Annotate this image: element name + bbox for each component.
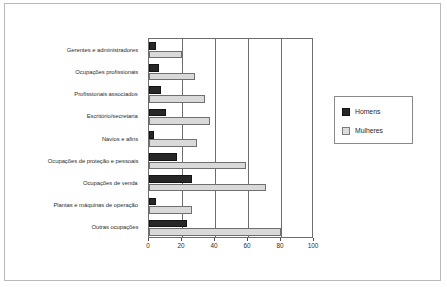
x-tick-label-80: 80 [276, 242, 283, 250]
bar-mulheres-8 [149, 228, 281, 236]
x-tick-mark-20 [181, 238, 182, 241]
bar-homens-5 [149, 153, 177, 161]
category-label: Escritório/secretaria [87, 112, 138, 119]
bar-chart: Gerentes e administradoresOcupações prof… [5, 4, 440, 280]
x-tick-label-100: 100 [308, 242, 319, 250]
bar-group [149, 217, 312, 239]
legend-label: Mulheres [355, 127, 383, 135]
bar-group [149, 39, 312, 61]
bar-homens-8 [149, 220, 187, 228]
bar-group [149, 61, 312, 83]
legend-item-mulheres[interactable]: Mulheres [342, 127, 383, 135]
x-axis: 020406080100 [148, 238, 313, 256]
category-label: Outras ocupações [91, 223, 138, 230]
x-tick-mark-40 [214, 238, 215, 241]
chart-legend: HomensMulheres [334, 96, 413, 144]
bar-homens-2 [149, 86, 161, 94]
x-tick-label-0: 0 [146, 242, 150, 250]
bar-group [149, 83, 312, 105]
category-label: Ocupações profissionais [75, 68, 138, 75]
bar-mulheres-0 [149, 51, 182, 59]
x-tick-label-60: 60 [243, 242, 250, 250]
bar-homens-6 [149, 175, 192, 183]
x-tick-mark-0 [148, 238, 149, 241]
bar-homens-4 [149, 131, 154, 139]
figure-frame: Gerentes e administradoresOcupações prof… [4, 3, 441, 281]
category-label: Ocupações de proteção e pessoais [47, 157, 138, 164]
category-label: Ocupações de venda [83, 179, 138, 186]
category-label: Profissionais associados [75, 90, 138, 97]
bar-mulheres-1 [149, 73, 195, 81]
bar-mulheres-6 [149, 184, 266, 192]
x-tick-label-40: 40 [210, 242, 217, 250]
bar-group [149, 128, 312, 150]
category-label: Navios e afins [102, 135, 138, 142]
bar-mulheres-7 [149, 206, 192, 214]
category-label: Plantas e máquinas de operação [53, 201, 138, 208]
bar-homens-3 [149, 109, 166, 117]
x-tick-mark-60 [247, 238, 248, 241]
category-axis-labels: Gerentes e administradoresOcupações prof… [5, 38, 144, 238]
bar-mulheres-3 [149, 117, 210, 125]
legend-swatch-icon [342, 108, 350, 116]
bar-group [149, 150, 312, 172]
legend-label: Homens [355, 108, 380, 116]
legend-swatch-icon [342, 127, 350, 135]
bar-mulheres-4 [149, 139, 197, 147]
bar-mulheres-2 [149, 95, 205, 103]
category-label: Gerentes e administradores [67, 46, 138, 53]
bar-mulheres-5 [149, 162, 246, 170]
bar-group [149, 172, 312, 194]
bar-homens-7 [149, 198, 156, 206]
x-tick-label-20: 20 [177, 242, 184, 250]
bar-homens-1 [149, 64, 159, 72]
bar-group [149, 106, 312, 128]
x-tick-mark-100 [313, 238, 314, 241]
bar-group [149, 195, 312, 217]
bar-homens-0 [149, 42, 156, 50]
legend-item-homens[interactable]: Homens [342, 108, 380, 116]
x-tick-mark-80 [280, 238, 281, 241]
plot-area [148, 38, 313, 238]
